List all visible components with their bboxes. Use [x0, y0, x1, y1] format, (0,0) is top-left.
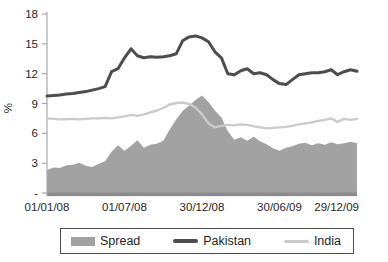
- x-axis-baseline: [47, 193, 357, 197]
- x-tick-label: 01/07/08: [102, 201, 147, 213]
- pakistan-line-series: [47, 36, 357, 96]
- chart-legend: Spread Pakistan India: [60, 228, 354, 254]
- spread-area-swatch-icon: [71, 237, 95, 246]
- pakistan-line-swatch-icon: [173, 239, 198, 243]
- y-tick-label: 6: [32, 127, 38, 139]
- x-tick-label: 29/12/09: [314, 201, 359, 213]
- y-tick-label: 15: [25, 38, 38, 50]
- y-tick-label: 9: [32, 98, 38, 110]
- legend-label-india: India: [314, 235, 341, 248]
- y-tick-label: -: [34, 187, 38, 199]
- y-tick-label: 12: [25, 68, 38, 80]
- legend-item-spread: Spread: [71, 235, 140, 248]
- india-line-swatch-icon: [284, 240, 309, 243]
- y-tick-label: 18: [25, 8, 38, 20]
- legend-item-pakistan: Pakistan: [173, 235, 251, 248]
- bond-yield-chart-figure: -36912151801/01/0801/07/0830/12/0830/06/…: [0, 0, 388, 262]
- y-tick-label: 3: [32, 157, 38, 169]
- legend-label-pakistan: Pakistan: [203, 235, 251, 248]
- chart-canvas: -36912151801/01/0801/07/0830/12/0830/06/…: [0, 0, 388, 222]
- x-tick-label: 01/01/08: [25, 201, 70, 213]
- legend-label-spread: Spread: [100, 235, 140, 248]
- legend-item-india: India: [284, 235, 341, 248]
- x-tick-label: 30/06/09: [257, 201, 302, 213]
- spread-area-series: [47, 96, 357, 194]
- y-axis-title: %: [2, 103, 14, 113]
- x-tick-label: 30/12/08: [180, 201, 225, 213]
